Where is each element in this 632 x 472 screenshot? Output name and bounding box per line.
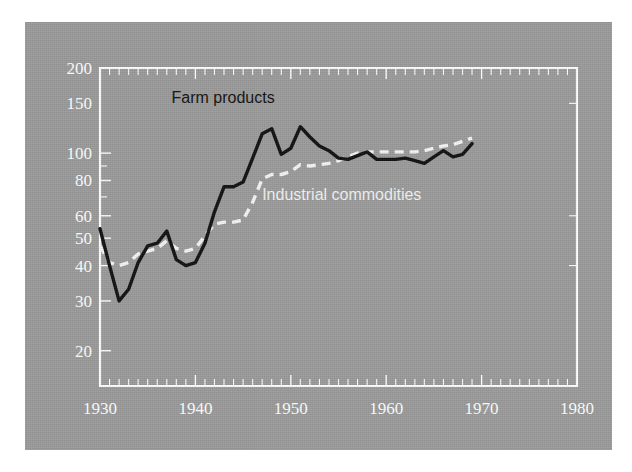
x-axis-label-1940: 1940 <box>178 399 212 418</box>
y-axis-label-200: 200 <box>67 59 93 78</box>
y-axis-label-150: 150 <box>67 94 93 113</box>
y-axis-label-20: 20 <box>75 342 92 361</box>
y-axis-label-50: 50 <box>75 229 92 248</box>
series-label-farm-products: Farm products <box>172 89 275 106</box>
y-axis-label-60: 60 <box>75 207 92 226</box>
chart-panel: 200150100806050403020 193019401950196019… <box>25 22 612 450</box>
y-axis-ticks <box>100 68 577 351</box>
x-axis-label-1960: 1960 <box>369 399 403 418</box>
x-axis-ticks <box>100 68 577 386</box>
price-index-line-chart: 200150100806050403020 193019401950196019… <box>25 22 612 450</box>
y-axis-label-40: 40 <box>75 257 92 276</box>
series-label-industrial-commodities: Industrial commodities <box>262 186 421 203</box>
y-axis-tick-labels: 200150100806050403020 <box>67 59 93 361</box>
x-axis-tick-labels: 193019401950196019701980 <box>83 399 594 418</box>
y-axis-label-100: 100 <box>67 144 93 163</box>
y-axis-label-30: 30 <box>75 292 92 311</box>
x-axis-label-1930: 1930 <box>83 399 117 418</box>
y-axis-label-80: 80 <box>75 171 92 190</box>
figure-root: 200150100806050403020 193019401950196019… <box>0 0 632 472</box>
x-axis-label-1970: 1970 <box>465 399 499 418</box>
x-axis-label-1980: 1980 <box>560 399 594 418</box>
plot-frame <box>100 68 577 386</box>
x-axis-label-1950: 1950 <box>274 399 308 418</box>
